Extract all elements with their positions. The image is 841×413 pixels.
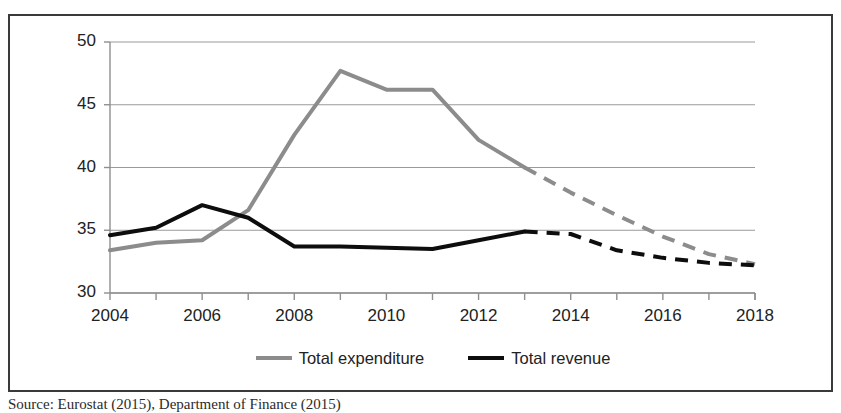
chart-border <box>8 14 833 392</box>
y-tick-label-40: 40 <box>62 157 96 177</box>
legend-swatch-total-expenditure <box>256 356 292 360</box>
legend-label-total-expenditure: Total expenditure <box>299 349 425 368</box>
legend-item-total-expenditure[interactable]: Total expenditure <box>256 349 425 368</box>
x-tick-label-2010: 2010 <box>356 306 416 326</box>
legend-swatch-total-revenue <box>468 356 504 360</box>
x-tick-label-2008: 2008 <box>264 306 324 326</box>
y-tick-label-50: 50 <box>62 31 96 51</box>
x-tick-label-2016: 2016 <box>633 306 693 326</box>
source-caption: Source: Eurostat (2015), Department of F… <box>8 396 341 413</box>
x-tick-label-2006: 2006 <box>172 306 232 326</box>
x-tick-label-2012: 2012 <box>449 306 509 326</box>
x-tick-label-2004: 2004 <box>80 306 140 326</box>
x-tick-label-2018: 2018 <box>725 306 785 326</box>
chart-legend: Total expenditure Total revenue <box>110 344 756 372</box>
x-tick-label-2014: 2014 <box>541 306 601 326</box>
legend-label-total-revenue: Total revenue <box>511 349 610 368</box>
y-tick-label-30: 30 <box>62 282 96 302</box>
y-tick-label-35: 35 <box>62 219 96 239</box>
y-tick-label-45: 45 <box>62 94 96 114</box>
legend-item-total-revenue[interactable]: Total revenue <box>468 349 610 368</box>
